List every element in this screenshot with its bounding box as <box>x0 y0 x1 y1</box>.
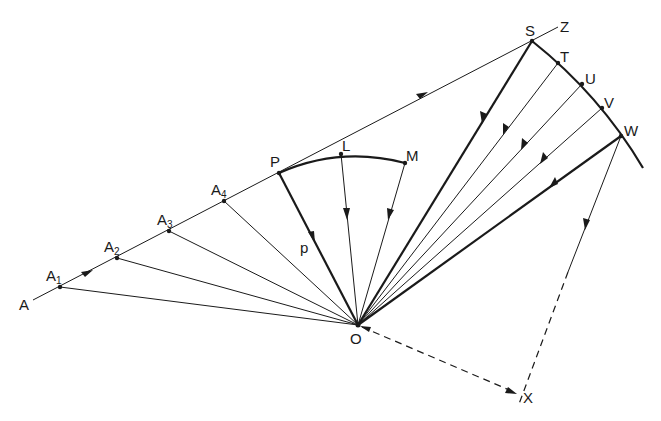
label-A4: A4 <box>211 181 227 200</box>
points <box>58 39 623 328</box>
arrowhead-icon <box>81 270 93 277</box>
ray-U-to-O <box>358 84 582 325</box>
arrowhead-icon <box>540 152 548 164</box>
point-U <box>580 82 584 86</box>
ray-T-to-O <box>358 63 558 325</box>
impulse-polygon-diagram: A A1 A2 A3 A4 P L M p S Z T U V W O X <box>0 0 661 421</box>
arrowhead-icon <box>521 138 528 150</box>
arrowhead-icon <box>505 387 517 394</box>
label-O: O <box>350 330 362 347</box>
label-S: S <box>525 22 535 39</box>
arrowhead-icon <box>583 218 590 230</box>
labels: A A1 A2 A3 A4 P L M p S Z T U V W O X <box>19 18 639 406</box>
ray-V-to-O <box>358 108 602 325</box>
point-W <box>619 134 623 138</box>
arc-STUVW <box>532 41 643 168</box>
label-X: X <box>523 389 533 406</box>
label-Z: Z <box>560 18 569 35</box>
arrowhead-icon <box>387 208 394 220</box>
label-P: P <box>270 153 280 170</box>
label-W: W <box>624 122 639 139</box>
ray-M-to-O <box>358 163 405 325</box>
line-O-to-X <box>360 326 517 394</box>
point-O <box>356 323 361 328</box>
arrowhead-icon <box>549 177 558 188</box>
label-A3: A3 <box>157 211 173 230</box>
label-V: V <box>604 94 614 111</box>
tangent-line-AZ <box>33 27 558 300</box>
ray-P-to-O <box>279 173 358 325</box>
ray-S-to-O <box>358 41 532 325</box>
ray-W-to-O <box>358 136 621 325</box>
arrowhead-icon <box>308 231 315 243</box>
label-L: L <box>342 137 350 154</box>
label-T: T <box>560 48 569 65</box>
label-A1: A1 <box>46 267 62 286</box>
label-A: A <box>19 296 29 313</box>
label-p: p <box>300 239 308 256</box>
label-A2: A2 <box>104 238 120 257</box>
point-P <box>277 171 281 175</box>
point-S <box>530 39 534 43</box>
line-W-to-X <box>519 136 621 404</box>
arrowhead-icon <box>343 208 350 220</box>
label-U: U <box>585 70 596 87</box>
label-M: M <box>406 147 419 164</box>
